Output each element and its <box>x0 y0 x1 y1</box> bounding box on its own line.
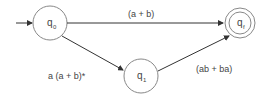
svg-text:q: q <box>137 70 143 81</box>
svg-text:q: q <box>47 17 53 28</box>
edge-label-q0-qf: (a + b) <box>128 9 154 19</box>
state-q0: q 0 <box>33 6 67 40</box>
edge-label-q0-q1: a (a + b)* <box>48 71 86 81</box>
state-qf: q f <box>225 8 255 38</box>
edge-q0-q1 <box>62 36 123 70</box>
edge-label-q1-qf: (ab + ba) <box>196 64 232 74</box>
state-q1: q 1 <box>124 59 158 93</box>
svg-text:q: q <box>237 17 243 28</box>
automaton-diagram: q 0 q 1 q f (a + b) a (a + b)* (ab + ba) <box>0 0 274 95</box>
